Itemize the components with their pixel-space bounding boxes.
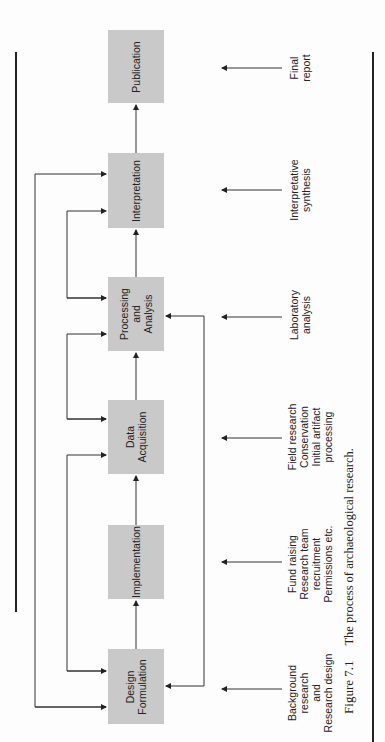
activity-line: Interpretative	[288, 159, 300, 220]
stage-label: and	[130, 288, 142, 340]
activity-line: Background	[286, 654, 298, 733]
activity-line: analysis	[300, 290, 312, 340]
activity-line: processing	[322, 404, 334, 471]
stage-label: Data	[124, 412, 136, 463]
stage-label: Processing	[118, 288, 130, 340]
activity-line: and	[310, 654, 322, 733]
activity-line: report	[300, 54, 312, 81]
stage-box-processing: Processing and Analysis	[108, 277, 164, 351]
activity-line: recruitment	[310, 525, 322, 602]
stage-box-publication: Publication	[108, 30, 164, 103]
figure-page: Publication Interpretation Processing an…	[0, 0, 385, 742]
stage-label: Implementation	[130, 526, 142, 598]
activity-line: Initial artifact	[310, 404, 322, 471]
activity-line: Research design	[322, 654, 334, 733]
stage-box-data-acquisition: Data Acquisition	[108, 400, 164, 474]
activity-line: research	[298, 654, 310, 733]
stage-label: Analysis	[142, 288, 154, 340]
activity-line: synthesis	[300, 159, 312, 220]
activity-line: Research team	[298, 525, 310, 602]
figure-number: Figure 7.1	[341, 660, 356, 713]
activity-line: Final	[288, 54, 300, 81]
activity-line: Field research	[286, 404, 298, 471]
activity-line: Permissions etc.	[322, 525, 334, 602]
stage-label: Publication	[130, 41, 142, 92]
stage-box-interpretation: Interpretation	[108, 153, 164, 228]
stage-label: Interpretation	[130, 160, 142, 222]
stage-box-design-formulation: Design Formulation	[108, 649, 164, 724]
stage-label: Acquisition	[136, 412, 148, 463]
activity-line: Fund raising	[286, 525, 298, 602]
activity-line: Conservation	[298, 404, 310, 471]
stage-label: Formulation	[136, 659, 148, 714]
connector-lines	[0, 0, 385, 742]
stage-label: Design	[124, 659, 136, 714]
stage-box-implementation: Implementation	[108, 525, 164, 599]
activity-line: Laboratory	[288, 290, 300, 340]
figure-caption-text: The process of archaeological research.	[342, 448, 356, 645]
